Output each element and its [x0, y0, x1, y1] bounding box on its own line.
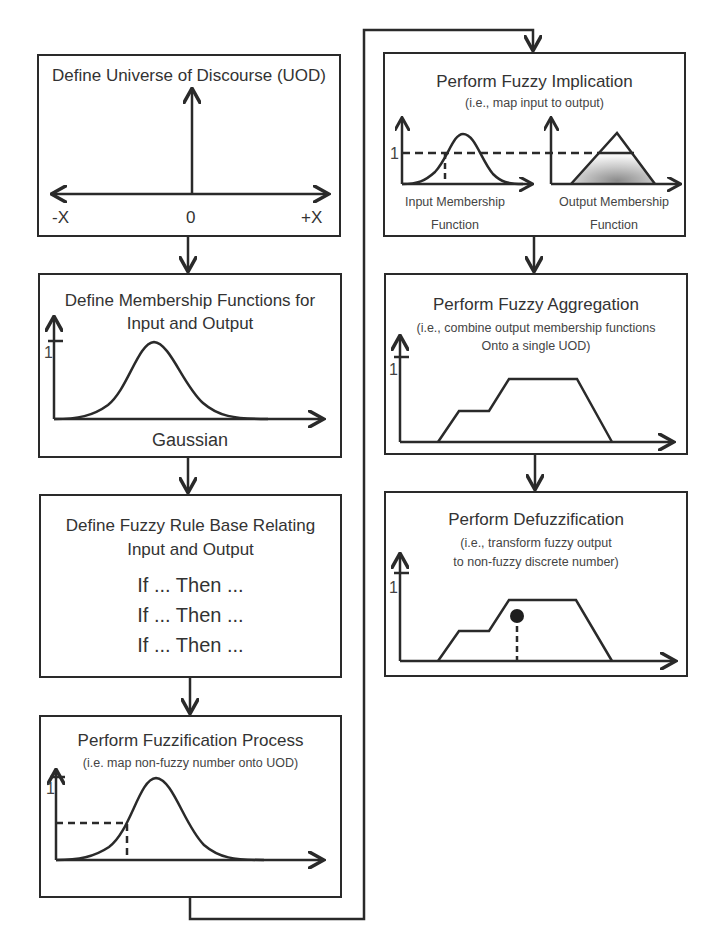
step-fuzzy-implication: Perform Fuzzy Implication (i.e., map inp… [383, 52, 686, 237]
fuzzification-plot [39, 715, 342, 898]
y-tick-one: 1 [46, 780, 55, 798]
y-tick-one: 1 [390, 145, 399, 163]
curve-label: Gaussian [40, 430, 340, 451]
axis-label-origin: 0 [186, 208, 195, 228]
step-define-rule-base: Define Fuzzy Rule Base Relating Input an… [39, 494, 342, 678]
y-tick-one: 1 [389, 361, 398, 379]
axis-label-positive-x: +X [301, 208, 322, 228]
step-title-line2: Input and Output [41, 540, 340, 560]
centroid-point [510, 609, 524, 623]
y-tick-one: 1 [389, 579, 398, 597]
y-tick-one: 1 [44, 344, 53, 362]
output-membership-label: Output Membership Function [545, 191, 683, 237]
step-fuzzification: Perform Fuzzification Process (i.e. map … [39, 715, 342, 898]
step-define-membership-functions: Define Membership Functions for Input an… [38, 273, 342, 458]
rule-3: If ... Then ... [41, 634, 340, 657]
axis-label-negative-x: -X [52, 208, 69, 228]
step-define-uod: Define Universe of Discourse (UOD) -X 0 … [37, 54, 341, 237]
step-fuzzy-aggregation: Perform Fuzzy Aggregation (i.e., combine… [384, 273, 688, 455]
defuzzification-plot [384, 491, 688, 677]
aggregation-plot [384, 273, 688, 455]
step-defuzzification: Perform Defuzzification (i.e., transform… [384, 491, 688, 677]
rule-2: If ... Then ... [41, 604, 340, 627]
input-membership-label: Input Membership Function [395, 191, 515, 237]
step-title-line1: Define Fuzzy Rule Base Relating [41, 516, 340, 536]
rule-1: If ... Then ... [41, 574, 340, 597]
